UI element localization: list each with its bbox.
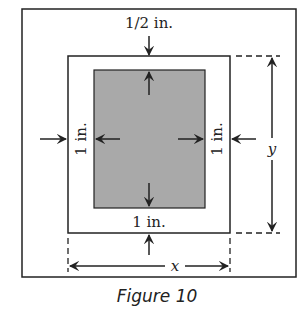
label-bottom-margin: 1 in. [132,213,166,231]
figure-caption: Figure 10 [117,286,198,306]
label-y: y [267,140,277,158]
label-right-margin: 1 in. [208,122,226,156]
label-top-margin: 1/2 in. [125,14,173,32]
label-left-margin: 1 in. [72,122,90,156]
label-x: x [171,257,180,275]
poster-diagram: 1/2 in. 1 in. 1 in. 1 in. y x Figure 10 [0,0,308,314]
